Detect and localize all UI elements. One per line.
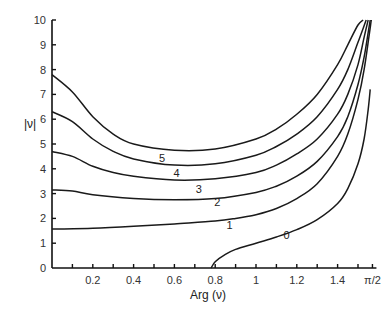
- curve-label-5: 5: [159, 152, 165, 164]
- x-tick-label: 0.4: [126, 274, 141, 286]
- y-tick-label: 1: [40, 237, 46, 249]
- curve-label-1: 1: [226, 219, 232, 231]
- curve-3: [52, 20, 368, 180]
- y-tick-label: 0: [40, 262, 46, 274]
- y-tick-label: 7: [40, 88, 46, 100]
- y-tick-label: 6: [40, 113, 46, 125]
- x-tick-label: 1.2: [289, 274, 304, 286]
- y-tick-label: 5: [40, 138, 46, 150]
- y-tick-label: 10: [34, 14, 46, 26]
- x-tick-label: 1.4: [330, 274, 345, 286]
- y-axis-label: |ν|: [24, 117, 36, 131]
- curve-0: [211, 89, 370, 268]
- x-tick-label: π/2: [364, 274, 381, 286]
- line-chart: 0123456789100.20.40.60.811.21.4π/2 01234…: [0, 0, 390, 317]
- curve-label-2: 2: [214, 196, 220, 208]
- y-tick-label: 3: [40, 188, 46, 200]
- x-axis-label: Arg (ν): [190, 288, 226, 302]
- y-tick-label: 9: [40, 39, 46, 51]
- x-tick-label: 0.2: [85, 274, 100, 286]
- x-tick-label: 0.8: [208, 274, 223, 286]
- x-tick-label: 0.6: [167, 274, 182, 286]
- y-tick-label: 2: [40, 212, 46, 224]
- y-tick-label: 8: [40, 64, 46, 76]
- curve-label-3: 3: [196, 183, 202, 195]
- y-tick-label: 4: [40, 163, 46, 175]
- curve-label-0: 0: [284, 229, 290, 241]
- x-tick-label: 1: [253, 274, 259, 286]
- curve-label-4: 4: [173, 167, 179, 179]
- curve-5: [52, 20, 363, 151]
- curves: [52, 20, 371, 268]
